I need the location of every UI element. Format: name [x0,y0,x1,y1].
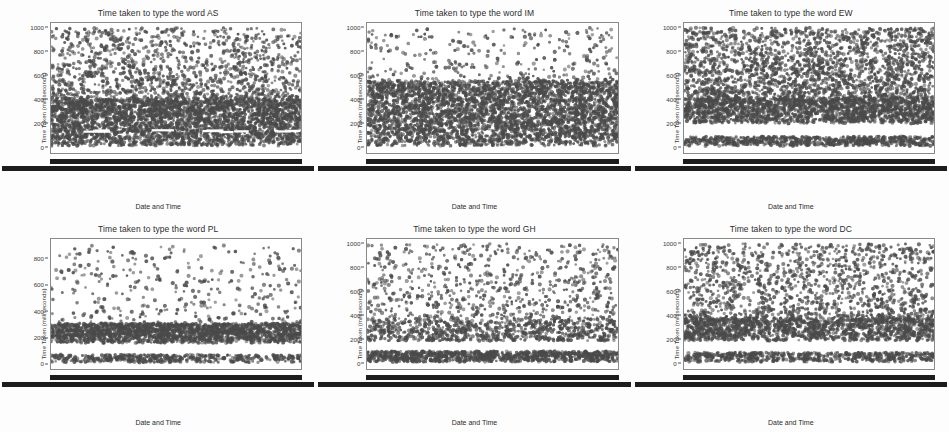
plot-area [50,238,302,370]
y-tick-label: 400 [350,95,360,102]
y-tick-label: 0 [357,359,360,366]
y-tick-label: 400 [34,95,44,102]
x-axis-label: Date and Time [316,203,632,210]
x-axis-label: Date and Time [316,419,632,426]
panel-title: Time taken to type the word GH [316,224,632,234]
y-tick-label: 600 [350,287,360,294]
y-tick-label: 400 [34,307,44,314]
plot-area [683,238,935,370]
plot-panel-dc: Time taken to type the word DCTime Taken… [633,216,949,432]
plot-area [683,22,935,154]
y-tick-label: 400 [350,311,360,318]
scatter-points [51,23,301,153]
y-tick-label: 200 [34,334,44,341]
x-axis-tick-labels [366,159,618,164]
x-axis-tick-labels-overflow [318,166,630,171]
scatter-points [367,23,617,153]
y-tick-label: 200 [350,335,360,342]
plot-area [366,238,618,370]
x-axis-tick-labels-overflow [2,382,314,387]
scatter-canvas [684,23,934,153]
x-axis-tick-labels [50,375,302,380]
y-tick-label: 0 [673,143,676,150]
y-tick-label: 1000 [347,239,361,246]
plot-panel-gh: Time taken to type the word GHTime Taken… [316,216,632,432]
y-tick-label: 0 [357,143,360,150]
y-tick-label: 1000 [663,239,677,246]
x-axis-tick-labels-overflow [318,382,630,387]
scatter-points [367,239,617,369]
x-axis-label: Date and Time [633,419,949,426]
y-tick-label: 800 [34,47,44,54]
scatter-canvas [367,23,617,153]
x-axis-tick-labels [366,375,618,380]
y-tick-label: 800 [666,47,676,54]
y-tick-label: 400 [666,311,676,318]
y-tick-label: 200 [666,335,676,342]
y-tick-label: 600 [666,71,676,78]
y-axis-ticks: 02004006008001000 [22,22,48,154]
x-axis-label: Date and Time [0,203,316,210]
panel-title: Time taken to type the word PL [0,224,316,234]
x-axis-tick-labels [50,159,302,164]
scatter-plot-grid: Time taken to type the word ASTime Taken… [0,0,949,432]
y-tick-label: 600 [666,287,676,294]
y-axis-ticks: 02004006008001000 [655,238,681,370]
y-tick-label: 400 [666,95,676,102]
y-tick-label: 0 [673,359,676,366]
plot-area [366,22,618,154]
y-tick-label: 0 [41,360,44,367]
y-tick-label: 1000 [347,23,361,30]
y-tick-label: 800 [666,263,676,270]
y-tick-label: 600 [34,281,44,288]
plot-area [50,22,302,154]
y-axis-ticks: 02004006008001000 [338,238,364,370]
scatter-canvas [51,23,301,153]
y-tick-label: 800 [350,47,360,54]
x-axis-tick-labels-overflow [2,166,314,171]
y-tick-label: 200 [350,119,360,126]
y-tick-label: 200 [666,119,676,126]
y-axis-ticks: 02004006008001000 [655,22,681,154]
y-axis-ticks: 02004006008001000 [338,22,364,154]
x-axis-label: Date and Time [0,419,316,426]
y-tick-label: 200 [34,119,44,126]
scatter-points [684,23,934,153]
plot-panel-im: Time taken to type the word IMTime Taken… [316,0,632,216]
panel-title: Time taken to type the word AS [0,8,316,18]
x-axis-tick-labels-overflow [635,382,947,387]
x-axis-tick-labels-overflow [635,166,947,171]
y-tick-label: 600 [350,71,360,78]
x-axis-tick-labels [683,375,935,380]
scatter-canvas [684,239,934,369]
y-tick-label: 800 [350,263,360,270]
panel-title: Time taken to type the word EW [633,8,949,18]
y-tick-label: 800 [34,254,44,261]
x-axis-tick-labels [683,159,935,164]
scatter-canvas [367,239,617,369]
scatter-points [684,239,934,369]
plot-panel-as: Time taken to type the word ASTime Taken… [0,0,316,216]
plot-panel-ew: Time taken to type the word EWTime Taken… [633,0,949,216]
y-tick-label: 0 [41,143,44,150]
scatter-canvas [51,239,301,369]
y-tick-label: 1000 [30,23,44,30]
panel-title: Time taken to type the word DC [633,224,949,234]
panel-title: Time taken to type the word IM [316,8,632,18]
y-axis-ticks: 0200400600800 [22,238,48,370]
y-tick-label: 600 [34,71,44,78]
scatter-points [51,239,301,369]
plot-panel-pl: Time taken to type the word PLTime Taken… [0,216,316,432]
x-axis-label: Date and Time [633,203,949,210]
y-tick-label: 1000 [663,23,677,30]
